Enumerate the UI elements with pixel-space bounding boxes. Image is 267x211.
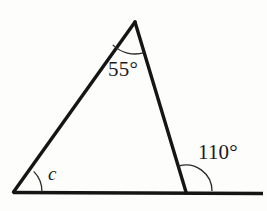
right-side-line [135, 22, 186, 192]
triangle-diagram-svg [0, 0, 267, 211]
exterior-angle-label: 110° [198, 142, 238, 163]
apex-angle-label: 55° [108, 59, 138, 80]
unknown-angle-label: c [48, 164, 56, 183]
unknown-angle-arc [34, 171, 42, 192]
base-line-with-extension [13, 193, 263, 194]
geometry-figure: 55° 110° c [0, 0, 267, 211]
